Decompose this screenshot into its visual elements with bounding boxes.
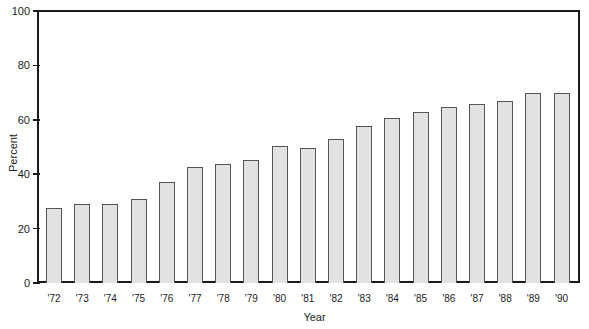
bar-chart: 020406080100 '72'73'74'75'76'77'78'79'80… [0, 0, 589, 329]
y-tick-label: 60 [2, 114, 30, 126]
y-tick-label: 20 [2, 223, 30, 235]
x-tick-label: '75 [125, 293, 153, 304]
y-tick-mark [33, 119, 40, 121]
bar-76 [159, 182, 175, 283]
x-tick-label: '90 [548, 293, 576, 304]
bar-80 [272, 146, 288, 283]
x-tick-label: '84 [378, 293, 406, 304]
x-tick-label: '87 [463, 293, 491, 304]
x-tick-label: '77 [181, 293, 209, 304]
x-tick-label: '73 [68, 293, 96, 304]
bar-88 [497, 101, 513, 283]
y-tick-mark [33, 10, 40, 12]
bar-78 [215, 164, 231, 283]
x-tick-label: '81 [294, 293, 322, 304]
x-tick-label: '83 [350, 293, 378, 304]
bar-90 [554, 93, 570, 283]
x-tick-label: '86 [435, 293, 463, 304]
bar-72 [46, 208, 62, 283]
y-tick-label: 80 [2, 59, 30, 71]
y-tick-mark [33, 173, 40, 175]
x-tick-label: '88 [491, 293, 519, 304]
x-tick-label: '78 [209, 293, 237, 304]
x-tick-label: '72 [40, 293, 68, 304]
bar-85 [413, 112, 429, 283]
bar-89 [525, 93, 541, 283]
x-tick-label: '89 [519, 293, 547, 304]
bar-74 [102, 204, 118, 283]
bar-77 [187, 167, 203, 283]
y-axis-title: Percent [7, 128, 19, 178]
bar-75 [131, 199, 147, 283]
y-tick-label: 100 [2, 5, 30, 17]
x-tick-label: '82 [322, 293, 350, 304]
bar-86 [441, 107, 457, 283]
x-tick-label: '74 [96, 293, 124, 304]
bar-83 [356, 126, 372, 283]
x-axis-title: Year [0, 311, 589, 323]
y-tick-mark [33, 282, 40, 284]
y-tick-mark [33, 65, 40, 67]
bar-87 [469, 104, 485, 283]
x-tick-label: '76 [153, 293, 181, 304]
y-tick-mark [33, 228, 40, 230]
bar-81 [300, 148, 316, 283]
bar-79 [243, 160, 259, 283]
x-tick-label: '79 [237, 293, 265, 304]
bar-82 [328, 139, 344, 283]
x-tick-label: '85 [407, 293, 435, 304]
y-tick-label: 0 [2, 277, 30, 289]
x-tick-label: '80 [266, 293, 294, 304]
bar-73 [74, 204, 90, 283]
bar-84 [384, 118, 400, 283]
